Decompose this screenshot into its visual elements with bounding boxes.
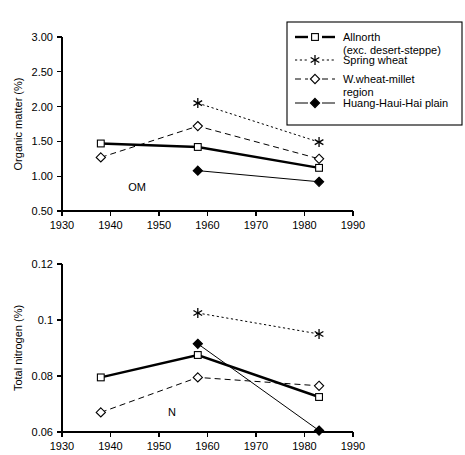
x-tick-label: 1950 xyxy=(147,440,171,452)
y-tick-label: 1.50 xyxy=(32,135,53,147)
data-point-marker xyxy=(193,166,202,175)
x-tick-label: 1990 xyxy=(341,440,365,452)
chart-legend: Allnorth(exc. desert-steppe)Spring wheat… xyxy=(287,22,462,125)
y-tick-label: 2.50 xyxy=(32,66,53,78)
data-point-marker xyxy=(314,381,323,390)
series-line xyxy=(198,344,319,431)
figure-container: 0.501.001.502.002.503.001930194019501960… xyxy=(0,0,465,455)
data-point-marker xyxy=(194,352,201,359)
data-point-marker xyxy=(315,137,324,147)
x-tick-label: 1960 xyxy=(195,440,219,452)
data-point-marker xyxy=(193,98,202,108)
data-point-marker xyxy=(193,308,202,318)
legend-label: Huang-Haui-Hai plain xyxy=(343,97,448,109)
y-tick-label: 0.08 xyxy=(32,370,53,382)
series-line xyxy=(198,171,319,182)
x-tick-label: 1950 xyxy=(147,219,171,231)
x-tick-label: 1930 xyxy=(50,440,74,452)
x-tick-label: 1990 xyxy=(341,219,365,231)
data-point-marker xyxy=(316,394,323,401)
y-axis-title: Total nitrogen (%) xyxy=(12,305,24,391)
y-tick-label: 0.06 xyxy=(32,426,53,438)
data-point-marker xyxy=(314,177,323,186)
data-point-marker xyxy=(316,164,323,171)
data-point-marker xyxy=(97,374,104,381)
data-point-marker xyxy=(314,154,323,163)
data-point-marker xyxy=(193,373,202,382)
x-tick-label: 1940 xyxy=(98,440,122,452)
data-point-marker xyxy=(193,121,202,130)
series-line xyxy=(101,126,319,159)
legend-label: Allnorth xyxy=(343,31,380,43)
x-tick-label: 1930 xyxy=(50,219,74,231)
axis-spines xyxy=(62,264,353,432)
legend-sample-marker xyxy=(312,34,319,41)
y-tick-label: 0.12 xyxy=(32,258,53,270)
y-tick-label: 1.00 xyxy=(32,170,53,182)
y-tick-label: 0.1 xyxy=(38,314,53,326)
y-tick-label: 2.00 xyxy=(32,101,53,113)
series-line xyxy=(198,313,319,334)
panel-annotation: OM xyxy=(128,181,146,193)
data-point-marker xyxy=(96,408,105,417)
x-tick-label: 1940 xyxy=(98,219,122,231)
data-point-marker xyxy=(314,426,323,435)
legend-label: Spring wheat xyxy=(343,54,407,66)
series-line xyxy=(101,355,319,397)
data-point-marker xyxy=(193,339,202,348)
data-point-marker xyxy=(194,144,201,151)
x-tick-label: 1980 xyxy=(292,219,316,231)
data-point-marker xyxy=(97,140,104,147)
y-tick-label: 3.00 xyxy=(32,31,53,43)
y-tick-label: 0.50 xyxy=(32,205,53,217)
panel-total-nitrogen: 0.060.080.10.121930194019501960197019801… xyxy=(12,258,365,452)
legend-label: W.wheat-millet xyxy=(343,73,415,85)
x-tick-label: 1970 xyxy=(244,440,268,452)
x-tick-label: 1980 xyxy=(292,440,316,452)
data-point-marker xyxy=(96,153,105,162)
y-axis-title: Organic matter (%) xyxy=(12,78,24,171)
panel-annotation: N xyxy=(168,406,176,418)
x-tick-label: 1970 xyxy=(244,219,268,231)
chart-svg: 0.501.001.502.002.503.001930194019501960… xyxy=(0,0,465,455)
data-point-marker xyxy=(315,329,324,339)
x-tick-label: 1960 xyxy=(195,219,219,231)
